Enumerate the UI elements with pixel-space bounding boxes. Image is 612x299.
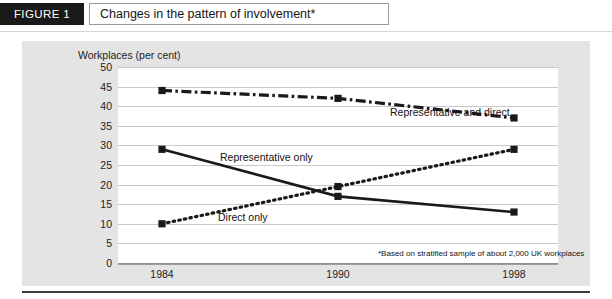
series-label-representative-and-direct: Representative and direct (390, 106, 510, 118)
y-axis-tick-35: 35 (100, 120, 112, 132)
y-axis-tick-45: 45 (100, 81, 112, 93)
header-divider (0, 31, 612, 32)
data-point-marker (158, 87, 165, 94)
y-axis-tick-20: 20 (100, 179, 112, 191)
figure-title: Changes in the pattern of involvement* (89, 3, 389, 25)
y-axis-title: Workplaces (per cent) (78, 49, 181, 61)
y-axis-tick-40: 40 (100, 100, 112, 112)
y-axis-tick-15: 15 (100, 198, 112, 210)
chart-footnote: *Based on stratified sample of about 2,0… (378, 249, 584, 258)
series-representative-only (158, 146, 517, 216)
data-point-marker (334, 95, 341, 102)
y-axis-tick-30: 30 (100, 139, 112, 151)
series-overlay (118, 67, 558, 263)
x-axis-tick-1990: 1990 (326, 268, 349, 280)
data-point-marker (158, 220, 165, 227)
y-axis-tick-0: 0 (106, 257, 112, 269)
data-point-marker (510, 208, 517, 215)
series-label-direct-only: Direct only (218, 211, 268, 223)
data-point-marker (334, 193, 341, 200)
series-label-representative-only: Representative only (220, 151, 313, 163)
chart-panel: Workplaces (per cent) 504540353025201510… (22, 41, 590, 286)
y-axis-tick-5: 5 (106, 237, 112, 249)
x-axis-tick-1984: 1984 (150, 268, 173, 280)
figure-number-tag: FIGURE 1 (0, 3, 84, 25)
figure-header: FIGURE 1 Changes in the pattern of invol… (0, 3, 612, 25)
x-axis: 198419901998 (118, 264, 558, 285)
data-point-marker (510, 146, 517, 153)
x-axis-tick-1998: 1998 (502, 268, 525, 280)
data-point-marker (334, 183, 341, 190)
data-point-marker (158, 146, 165, 153)
y-axis-tick-50: 50 (100, 61, 112, 73)
panel-bottom-rule (22, 291, 590, 293)
data-point-marker (510, 114, 517, 121)
series-direct-only (158, 146, 517, 228)
y-axis-tick-10: 10 (100, 218, 112, 230)
series-line (162, 149, 514, 212)
y-axis-tick-25: 25 (100, 159, 112, 171)
